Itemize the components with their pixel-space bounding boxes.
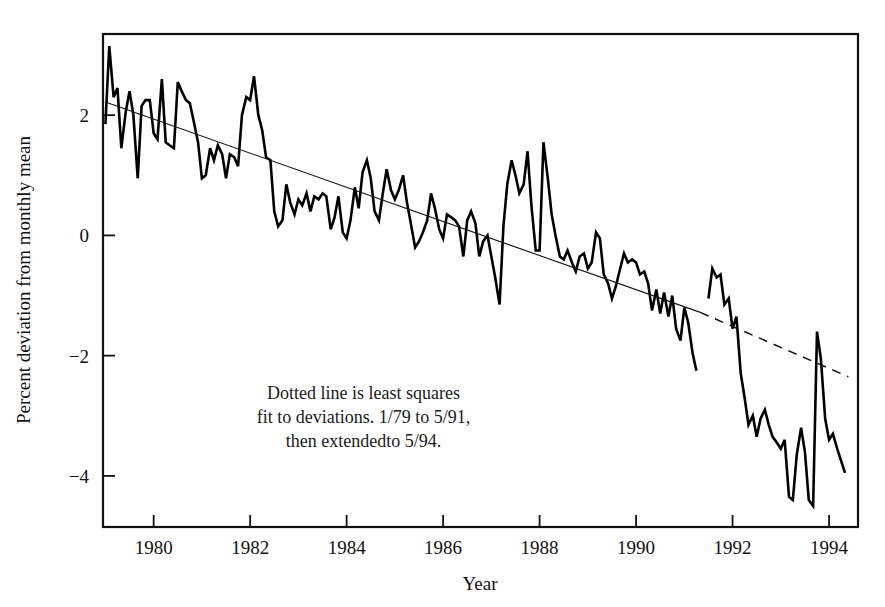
y-axis-tick-labels: 20−2−4 — [69, 105, 90, 487]
y-tick-label: −4 — [69, 466, 90, 487]
data-series-line — [105, 102, 700, 312]
x-axis-title: Year — [462, 573, 498, 594]
x-tick-label: 1994 — [810, 537, 849, 558]
y-tick-label: −2 — [69, 346, 89, 367]
plot-frame — [103, 34, 858, 527]
x-tick-label: 1980 — [135, 537, 173, 558]
x-tick-label: 1986 — [424, 537, 462, 558]
data-series-group — [105, 46, 848, 506]
x-axis-ticks — [154, 515, 829, 527]
annotation-line: Dotted line is least squares — [267, 383, 460, 403]
y-tick-label: 0 — [80, 225, 90, 246]
chart-canvas: 20−2−4 19801982198419861988199019921994 … — [0, 0, 885, 607]
x-tick-label: 1992 — [714, 537, 752, 558]
annotation-group: Dotted line is least squaresfit to devia… — [257, 383, 471, 451]
annotation-line: fit to deviations. 1/79 to 5/91, — [257, 407, 471, 427]
y-tick-label: 2 — [80, 105, 90, 126]
y-axis-title: Percent deviation from monthly mean — [13, 135, 34, 424]
x-tick-label: 1988 — [521, 537, 559, 558]
x-tick-label: 1984 — [328, 537, 367, 558]
y-axis-ticks — [103, 115, 115, 476]
data-series-line — [105, 46, 696, 371]
x-tick-label: 1982 — [231, 537, 269, 558]
x-tick-label: 1990 — [617, 537, 655, 558]
x-axis-tick-labels: 19801982198419861988199019921994 — [135, 537, 849, 558]
chart-figure: 20−2−4 19801982198419861988199019921994 … — [0, 0, 885, 607]
data-series-line — [708, 268, 845, 505]
annotation-line: then extendedto 5/94. — [286, 431, 441, 451]
data-series-line — [700, 312, 848, 376]
